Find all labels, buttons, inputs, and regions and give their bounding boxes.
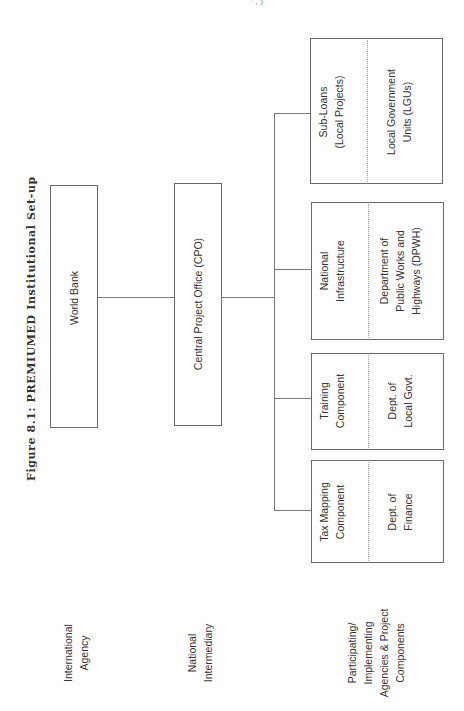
text-line: International [60,613,76,693]
text-line: Intermediary [200,613,216,693]
training-agency-label: Dept. of Local Govt. [384,366,418,436]
text-line: Finance [400,472,416,552]
text-line: Local Govt. [400,366,416,436]
text-line: Dept. of [384,366,400,436]
text-line: Units (LGUs) [399,57,415,167]
connector-taxmapping [274,510,311,511]
text-line: Department of [376,216,392,326]
text-line: National [316,216,332,326]
text-line: Highways (DPWH) [408,216,424,326]
text-line: Tax Mapping [316,472,332,552]
text-line: Local Government [383,57,399,167]
level-label-participating: Participating/ Implementing Agencies & P… [344,603,410,703]
connector-bus [274,113,275,510]
text-line: Training [316,366,332,436]
level-label-national: National Intermediary [184,613,218,693]
text-line: Dept. of [384,472,400,552]
divider [368,204,369,338]
text-line: Participating/ [344,603,360,703]
infrastructure-agency-label: Department of Public Works and Highways … [376,216,426,326]
text-line: Public Works and [392,216,408,326]
figure-title: Figure 8.1: PREMIUMED Institutional Set-… [25,249,39,481]
level-label-international: International Agency [60,613,94,693]
text-line: Agency [76,613,92,693]
connector-infrastructure [274,269,311,270]
connector-wb-cpo [98,297,174,298]
divider [368,462,369,561]
cpo-label: Central Project Office (CPO) [190,224,206,384]
text-line: Components [392,603,408,703]
divider [367,40,368,182]
training-component-label: Training Component [316,366,350,436]
text-line: Infrastructure [332,216,348,326]
text-line: National [184,613,200,693]
connector-training [274,398,311,399]
divider [368,355,369,448]
connector-subloans [274,113,311,114]
subloans-component-label: Sub-Loans (Local Projects) [315,57,349,167]
running-header-fragment: · , ) [250,0,263,6]
text-line: Component [332,366,348,436]
text-line: Component [332,472,348,552]
subloans-agency-label: Local Government Units (LGUs) [383,57,417,167]
infrastructure-component-label: National Infrastructure [316,216,350,326]
taxmapping-component-label: Tax Mapping Component [316,472,350,552]
text-line: (Local Projects) [331,57,347,167]
text-line: Implementing [360,603,376,703]
text-line: Sub-Loans [315,57,331,167]
world-bank-label: World Bank [66,238,82,358]
taxmapping-agency-label: Dept. of Finance [384,472,418,552]
text-line: Agencies & Project [376,603,392,703]
connector-cpo-bus [222,297,274,298]
